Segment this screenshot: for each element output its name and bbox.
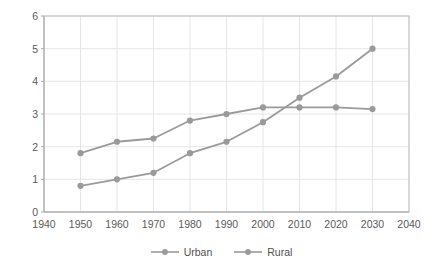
x-tick-label: 2020 [324,218,347,230]
x-tick-label: 1940 [32,218,55,230]
data-point-rural [369,106,375,112]
legend-item-rural[interactable]: Rural [234,247,292,257]
data-point-rural [223,111,229,117]
legend-marker-urban [151,247,179,257]
y-tick-label: 2 [12,141,38,153]
data-point-urban [333,73,339,79]
y-tick-label: 1 [12,173,38,185]
legend-label-urban: Urban [184,247,213,257]
data-point-urban [187,150,193,156]
x-tick-label: 1960 [105,218,128,230]
x-tick-label: 1980 [178,218,201,230]
y-tick-label: 4 [12,75,38,87]
data-point-rural [333,104,339,110]
data-point-rural [150,135,156,141]
data-point-urban [296,95,302,101]
data-point-rural [260,104,266,110]
y-tick-label: 5 [12,43,38,55]
x-tick-label: 2040 [397,218,420,230]
legend-label-rural: Rural [267,247,292,257]
x-tick-label: 1950 [69,218,92,230]
line-chart: 0123456 19401950196019701980199020002010… [0,0,443,263]
x-tick-label: 1990 [215,218,238,230]
legend-marker-rural [234,247,262,257]
y-tick-label: 6 [12,10,38,22]
legend-item-urban[interactable]: Urban [151,247,213,257]
x-tick-label: 1970 [142,218,165,230]
y-tick-label: 0 [12,206,38,218]
x-tick-label: 2010 [288,218,311,230]
data-point-urban [223,139,229,145]
data-point-rural [77,150,83,156]
data-point-rural [187,117,193,123]
data-point-rural [114,139,120,145]
data-point-urban [150,170,156,176]
x-tick-label: 2030 [361,218,384,230]
data-point-urban [369,46,375,52]
data-point-urban [260,119,266,125]
y-tick-label: 3 [12,108,38,120]
data-point-urban [114,176,120,182]
x-tick-label: 2000 [251,218,274,230]
data-point-rural [296,104,302,110]
chart-legend: Urban Rural [0,247,443,257]
data-point-urban [77,183,83,189]
